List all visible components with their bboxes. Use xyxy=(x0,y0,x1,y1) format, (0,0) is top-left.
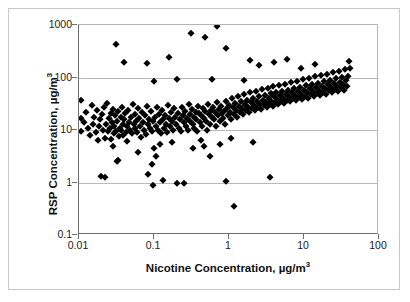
gridline-y-1 xyxy=(79,183,378,184)
y-axis-title-container: RSP Concentration, µg/m3 xyxy=(26,24,27,234)
scatter-point xyxy=(95,137,101,143)
scatter-point xyxy=(121,58,127,64)
scatter-point xyxy=(149,160,155,166)
scatter-point xyxy=(230,203,236,209)
plot-area xyxy=(78,24,378,234)
scatter-point xyxy=(312,61,318,67)
scatter-point xyxy=(166,53,172,59)
scatter-point xyxy=(256,62,262,68)
x-axis-title: Nicotine Concentration, µg/m3 xyxy=(78,262,378,274)
y-axis-tick-labels: 10001001010.1 xyxy=(28,24,72,234)
scatter-point xyxy=(247,57,253,63)
scatter-point xyxy=(173,179,179,185)
scatter-point xyxy=(222,178,228,184)
x-tick-label-100: 100 xyxy=(369,240,387,251)
scatter-point xyxy=(78,128,84,134)
scatter-point xyxy=(157,141,163,147)
scatter-point xyxy=(346,58,352,64)
scatter-point xyxy=(190,144,196,150)
scatter-point xyxy=(125,107,131,113)
scatter-point xyxy=(177,128,183,134)
scatter-point xyxy=(144,171,150,177)
scatter-point xyxy=(181,179,187,185)
scatter-point xyxy=(250,139,256,145)
scatter-point xyxy=(89,102,95,108)
x-tick-label-0.01: 0.01 xyxy=(68,240,88,251)
y-tick-label-0.1: 0.1 xyxy=(57,229,72,239)
chart-figure: RSP Concentration, µg/m3 10001001010.1 0… xyxy=(0,0,410,302)
scatter-point xyxy=(109,143,115,149)
scatter-point xyxy=(113,41,119,47)
scatter-point xyxy=(271,58,277,64)
scatter-point xyxy=(222,45,228,51)
y-tick-label-10: 10 xyxy=(60,124,72,134)
scatter-point xyxy=(267,173,273,179)
scatter-point xyxy=(101,134,107,140)
y-tick-label-1000: 1000 xyxy=(49,19,72,29)
x-axis-title-text: Nicotine Concentration, µg/m xyxy=(146,262,306,274)
x-tick-label-0.1: 0.1 xyxy=(146,240,161,251)
scatter-point xyxy=(148,108,154,114)
x-axis-tick-labels: 0.010.1110100 xyxy=(78,240,378,254)
scatter-point xyxy=(202,34,208,40)
scatter-point xyxy=(151,78,157,84)
x-axis-title-superscript: 3 xyxy=(306,260,310,269)
scatter-point xyxy=(200,143,206,149)
scatter-point xyxy=(135,149,141,155)
scatter-point xyxy=(206,153,212,159)
scatter-point xyxy=(173,75,179,81)
scatter-point xyxy=(194,127,200,133)
y-tick-mark-10 xyxy=(72,129,77,130)
scatter-point xyxy=(227,135,233,141)
scatter-point xyxy=(284,55,290,61)
x-tick-label-10: 10 xyxy=(297,240,309,251)
scatter-point xyxy=(214,24,220,29)
scatter-point xyxy=(78,96,84,102)
y-tick-label-100: 100 xyxy=(54,72,72,82)
scatter-point xyxy=(151,145,157,151)
scatter-point xyxy=(347,65,353,71)
scatter-point xyxy=(152,153,158,159)
y-tick-mark-0.1 xyxy=(72,234,77,235)
scatter-point xyxy=(297,65,303,71)
scatter-point xyxy=(143,60,149,66)
scatter-point xyxy=(93,129,99,135)
y-tick-mark-1 xyxy=(72,182,77,183)
scatter-point xyxy=(83,109,89,115)
scatter-point xyxy=(169,138,175,144)
scatter-point xyxy=(216,140,222,146)
y-tick-mark-100 xyxy=(72,77,77,78)
x-tick-label-1: 1 xyxy=(225,240,231,251)
scatter-point xyxy=(222,121,228,127)
scatter-point xyxy=(204,127,210,133)
scatter-point xyxy=(209,75,215,81)
y-tick-mark-1000 xyxy=(72,24,77,25)
scatter-point xyxy=(188,30,194,36)
scatter-point xyxy=(124,138,130,144)
